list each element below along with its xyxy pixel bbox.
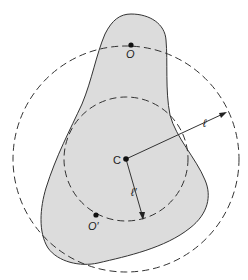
point-Oprime — [93, 212, 98, 217]
label-C: C — [113, 154, 121, 166]
diagram-canvas: O C O′ ℓ ℓ′ — [0, 0, 248, 280]
label-O: O — [126, 48, 135, 60]
point-C — [123, 156, 129, 162]
rigid-body-shape — [41, 14, 208, 264]
label-l: ℓ — [202, 117, 207, 129]
radius-l-arrowhead — [219, 112, 227, 118]
label-lprime: ℓ′ — [130, 186, 138, 198]
label-Oprime: O′ — [88, 220, 100, 232]
point-O — [128, 42, 133, 47]
